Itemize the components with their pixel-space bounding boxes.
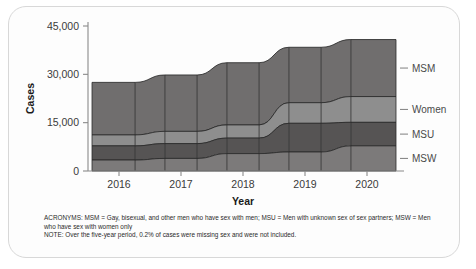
node-msu-2017 (165, 144, 197, 159)
node-msm-2018 (227, 63, 259, 125)
node-msm-2017 (165, 75, 197, 131)
node-msu-2016 (92, 146, 135, 160)
y-axis-title: Cases (24, 83, 36, 114)
node-msu-2018 (227, 138, 259, 153)
y-tick-label: 30,000 (47, 68, 79, 80)
node-msw-2020 (351, 146, 396, 171)
node-msu-2020 (351, 122, 396, 146)
node-women-2017 (165, 131, 197, 143)
ribbon-msm-2017-2018 (197, 63, 227, 132)
node-msw-2019 (289, 152, 321, 171)
ribbon-msw-2018-2019 (259, 152, 289, 171)
node-women-2020 (351, 97, 396, 123)
ribbon-msm-2016-2017 (135, 75, 165, 135)
node-msw-2016 (92, 160, 135, 171)
legend-label-women: Women (412, 104, 446, 115)
x-axis-title: Year (232, 195, 254, 207)
node-women-2016 (92, 135, 135, 146)
x-tick-label: 2019 (293, 178, 317, 190)
legend-label-msu: MSU (412, 129, 434, 140)
legend-label-msm: MSM (412, 63, 435, 74)
footnotes-block: ACRONYMS: MSM = Gay, bisexual, and other… (44, 214, 440, 240)
legend-label-msw: MSW (412, 153, 437, 164)
node-msm-2020 (351, 40, 396, 97)
node-women-2018 (227, 125, 259, 138)
x-tick-label: 2020 (355, 178, 379, 190)
x-tick-label: 2017 (169, 178, 193, 190)
node-msw-2018 (227, 154, 259, 171)
y-tick-label: 45,000 (47, 20, 79, 32)
footnote-acronyms: ACRONYMS: MSM = Gay, bisexual, and other… (44, 214, 440, 231)
x-tick-label: 2016 (107, 178, 131, 190)
footnote-note: NOTE: Over the five-year period, 0.2% of… (44, 231, 440, 240)
node-women-2019 (289, 103, 321, 124)
y-tick-label: 15,000 (47, 116, 79, 128)
node-msm-2019 (289, 47, 321, 102)
y-tick-label: 0 (73, 165, 79, 177)
x-tick-label: 2018 (231, 178, 255, 190)
node-msu-2019 (289, 123, 321, 152)
ribbon-msm-2019-2020 (321, 40, 351, 103)
node-msw-2017 (165, 158, 197, 171)
node-msm-2016 (92, 82, 135, 135)
